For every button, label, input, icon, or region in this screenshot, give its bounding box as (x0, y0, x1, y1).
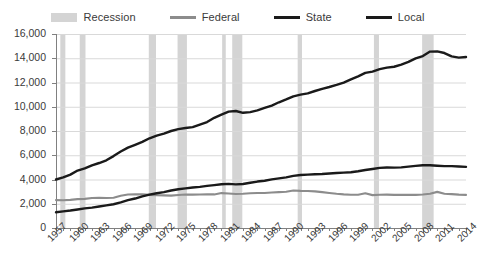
yaxis-tick-label: 0 (2, 221, 46, 233)
yaxis-tick-label: 4,000 (2, 173, 46, 185)
yaxis-tick-label: 8,000 (2, 124, 46, 136)
yaxis-tick-label: 14,000 (2, 51, 46, 63)
yaxis-tick-label: 2,000 (2, 197, 46, 209)
series-line-local (56, 51, 466, 179)
yaxis-tick-label: 12,000 (2, 76, 46, 88)
yaxis-tick-label: 16,000 (2, 27, 46, 39)
series-line-federal (56, 191, 466, 201)
series-line-state (56, 165, 466, 212)
yaxis-tick-label: 10,000 (2, 100, 46, 112)
yaxis-tick-label: 6,000 (2, 148, 46, 160)
